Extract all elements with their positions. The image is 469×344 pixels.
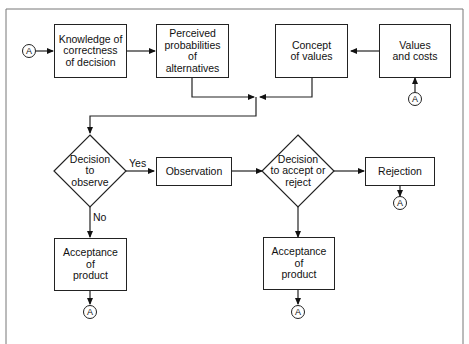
- acceptance-of-product-label-2: Acceptance of product: [272, 246, 327, 281]
- acceptance-of-product-label-1: Acceptance of product: [63, 247, 118, 282]
- values-and-costs-box: Values and costs: [379, 24, 451, 78]
- connector-a-start: A: [22, 44, 36, 58]
- flowchart-diagram: A Knowledge of correctness of decision P…: [0, 0, 469, 344]
- no-label: No: [93, 212, 106, 223]
- connector-a-values: A: [408, 92, 422, 106]
- connector-a-acceptance-1: A: [83, 305, 97, 319]
- yes-label: Yes: [129, 158, 146, 169]
- decision-to-accept-label: Decision to accept or reject: [271, 154, 326, 189]
- decision-to-accept-diamond: Decision to accept or reject: [263, 150, 333, 192]
- rejection-label: Rejection: [378, 166, 422, 178]
- perceived-probabilities-box: Perceived probabilities of alternatives: [156, 24, 229, 78]
- acceptance-of-product-box-2: Acceptance of product: [263, 237, 335, 290]
- observation-box: Observation: [156, 157, 232, 186]
- rejection-box: Rejection: [365, 157, 435, 186]
- perceived-probabilities-label: Perceived probabilities of alternatives: [164, 28, 220, 74]
- observation-label: Observation: [166, 166, 223, 178]
- knowledge-box: Knowledge of correctness of decision: [54, 24, 127, 78]
- acceptance-of-product-box-1: Acceptance of product: [54, 238, 127, 291]
- knowledge-label: Knowledge of correctness of decision: [59, 34, 123, 69]
- connector-a-rejection: A: [393, 196, 407, 210]
- concept-of-values-label: Concept of values: [290, 40, 332, 63]
- decision-to-observe-diamond: Decision to observe: [60, 150, 120, 192]
- values-and-costs-label: Values and costs: [393, 40, 438, 63]
- decision-to-observe-label: Decision to observe: [70, 154, 110, 189]
- concept-of-values-box: Concept of values: [275, 24, 348, 78]
- connector-a-acceptance-2: A: [291, 305, 305, 319]
